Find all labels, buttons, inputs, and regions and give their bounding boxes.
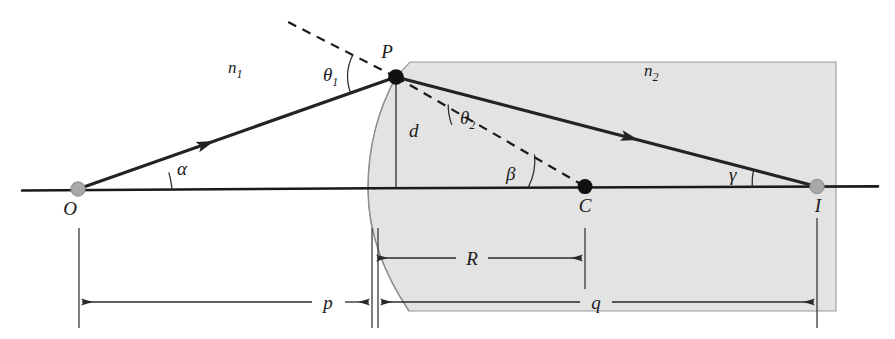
angle-arc-theta1 [348,55,353,93]
label-n1-subscript: 1 [237,67,243,81]
label-alpha: α [177,158,188,179]
incident-ray-arrowhead [196,136,217,152]
figure-canvas: O P C I n1 n2 θ1 θ2 α β γ d [0,0,895,339]
label-n2-subscript: 2 [653,70,659,84]
incident-ray [0,0,396,189]
label-n2-base: n [644,61,653,80]
center-point-marker [578,179,593,194]
label-point-P: P [380,41,393,62]
label-theta1-base: θ [323,64,332,85]
refraction-point-marker [388,69,404,85]
image-point-marker [810,179,824,193]
label-theta1: θ1 [323,64,338,89]
label-theta1-subscript: 1 [332,75,338,89]
label-dim-p: p [321,292,333,313]
refraction-diagram: O P C I n1 n2 θ1 θ2 α β γ d [0,0,895,339]
object-point-marker [71,182,85,196]
label-n1-base: n [228,58,237,77]
dimension-p: p [82,292,369,313]
svg-text:n1: n1 [228,58,243,81]
label-n1: n1 [228,58,243,81]
label-dim-R: R [465,248,478,269]
svg-text:θ1: θ1 [323,64,338,89]
angle-arc-alpha [169,172,172,188]
label-theta2-subscript: 2 [469,118,475,132]
label-dim-d: d [409,120,419,141]
label-dim-q: q [591,292,601,313]
label-beta: β [505,163,516,184]
label-point-C: C [579,195,592,216]
label-point-O: O [63,198,77,219]
label-theta2-base: θ [460,107,469,128]
label-gamma: γ [729,164,737,185]
